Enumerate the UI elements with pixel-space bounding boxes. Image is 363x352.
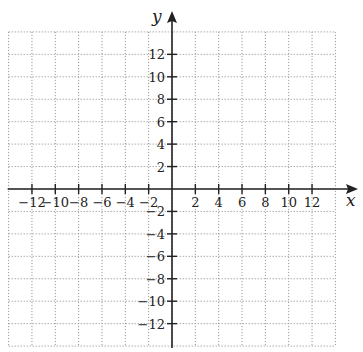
y-axis-label: y: [151, 6, 162, 26]
y-tick-label: −8: [146, 272, 165, 287]
y-tick-label: 10: [148, 70, 165, 85]
axes: [8, 11, 358, 348]
y-tick-label: 12: [148, 47, 165, 62]
x-tick-label: −4: [116, 195, 135, 210]
y-tick-label: −2: [146, 204, 165, 219]
y-tick-label: −4: [146, 227, 165, 242]
x-tick-label: −6: [92, 195, 111, 210]
y-tick-label: 2: [157, 160, 165, 175]
x-tick-label: −10: [42, 195, 69, 210]
y-tick-label: −10: [138, 294, 165, 309]
y-tick-label: −6: [146, 249, 165, 264]
x-tick-label: 4: [215, 195, 223, 210]
x-tick-label: 6: [238, 195, 246, 210]
x-tick-label: 2: [191, 195, 199, 210]
coordinate-plane: −12−10−8−6−4−224681012−12−10−8−6−4−22468…: [0, 0, 363, 352]
x-axis-label: x: [346, 190, 356, 210]
x-tick-label: 10: [280, 195, 297, 210]
x-tick-label: 12: [304, 195, 321, 210]
y-tick-label: −12: [138, 317, 165, 332]
y-tick-label: 4: [157, 137, 165, 152]
y-tick-label: 6: [157, 115, 165, 130]
y-tick-label: 8: [157, 92, 165, 107]
x-tick-label: −8: [69, 195, 88, 210]
x-tick-label: 8: [261, 195, 269, 210]
